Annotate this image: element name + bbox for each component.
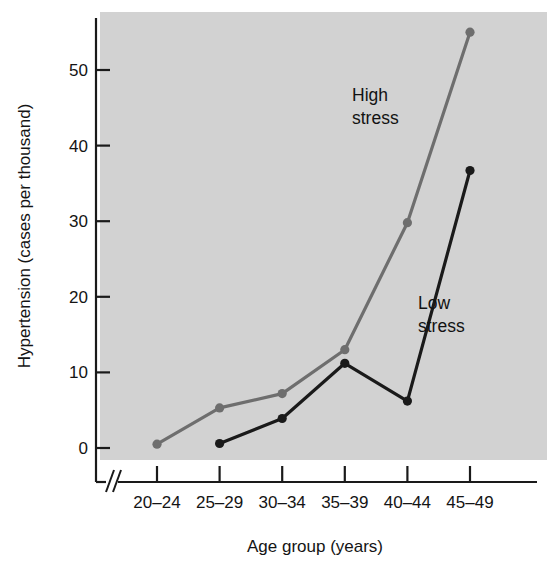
- chart-figure: 01020304050 Hypertension (cases per thou…: [0, 0, 547, 563]
- x-tick-label: 40–44: [384, 493, 431, 512]
- x-axis-title: Age group (years): [247, 537, 383, 556]
- x-tick-label: 35–39: [321, 493, 368, 512]
- y-tick-label: 50: [69, 61, 88, 80]
- data-point-marker: [340, 345, 349, 354]
- x-axis-tick-labels: 20–2425–2930–3435–3940–4445–49: [133, 493, 493, 512]
- high-stress-label-line2: stress: [352, 108, 399, 128]
- y-tick-label: 20: [69, 288, 88, 307]
- data-point-marker: [152, 440, 161, 449]
- x-tick-label: 20–24: [133, 493, 180, 512]
- data-point-marker: [403, 218, 412, 227]
- high-stress-label-line1: High: [352, 85, 388, 105]
- x-tick-label: 30–34: [259, 493, 306, 512]
- x-tick-label: 45–49: [446, 493, 493, 512]
- y-tick-label: 30: [69, 212, 88, 231]
- low-stress-label-line2: stress: [418, 316, 465, 336]
- data-point-marker: [465, 28, 474, 37]
- axis-break-icon: [106, 470, 114, 492]
- plot-area-background: [100, 12, 547, 460]
- data-point-marker: [278, 389, 287, 398]
- data-point-marker: [278, 414, 287, 423]
- data-point-marker: [403, 397, 412, 406]
- y-axis-title: Hypertension (cases per thousand): [15, 104, 34, 369]
- x-tick-label: 25–29: [196, 493, 243, 512]
- data-point-marker: [215, 403, 224, 412]
- y-tick-label: 0: [79, 439, 88, 458]
- x-axis-ticks: [157, 466, 470, 482]
- low-stress-label-line1: Low: [418, 293, 450, 313]
- data-point-marker: [465, 166, 474, 175]
- data-point-marker: [215, 439, 224, 448]
- line-chart-svg: 01020304050 Hypertension (cases per thou…: [0, 0, 547, 563]
- y-tick-label: 40: [69, 137, 88, 156]
- y-tick-label: 10: [69, 363, 88, 382]
- data-point-marker: [340, 359, 349, 368]
